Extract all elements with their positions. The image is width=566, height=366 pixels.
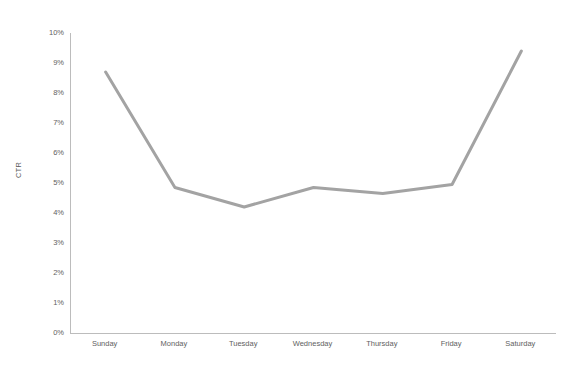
x-tick-label: Tuesday bbox=[229, 340, 258, 348]
y-tick-label: 9% bbox=[38, 59, 64, 67]
x-tick-label: Thursday bbox=[366, 340, 397, 348]
x-axis-tick-labels: SundayMondayTuesdayWednesdayThursdayFrid… bbox=[70, 340, 555, 356]
ctr-data-line bbox=[106, 51, 522, 207]
y-tick-label: 10% bbox=[38, 29, 64, 37]
y-tick-label: 6% bbox=[38, 149, 64, 157]
ctr-line-chart: CTR 0%1%2%3%4%5%6%7%8%9%10% SundayMonday… bbox=[0, 0, 566, 366]
x-tick-label: Saturday bbox=[505, 340, 535, 348]
y-tick-label: 8% bbox=[38, 89, 64, 97]
y-tick-label: 3% bbox=[38, 239, 64, 247]
y-tick-label: 2% bbox=[38, 269, 64, 277]
y-axis-title: CTR bbox=[14, 140, 23, 200]
y-tick-label: 5% bbox=[38, 179, 64, 187]
y-tick-label: 0% bbox=[38, 329, 64, 337]
x-tick-label: Friday bbox=[441, 340, 462, 348]
plot-area bbox=[70, 33, 556, 334]
data-line-svg bbox=[71, 33, 556, 333]
y-tick-label: 1% bbox=[38, 299, 64, 307]
y-tick-label: 7% bbox=[38, 119, 64, 127]
x-tick-label: Monday bbox=[161, 340, 188, 348]
y-axis-tick-labels: 0%1%2%3%4%5%6%7%8%9%10% bbox=[38, 33, 64, 333]
y-tick-label: 4% bbox=[38, 209, 64, 217]
x-tick-label: Sunday bbox=[92, 340, 117, 348]
x-tick-label: Wednesday bbox=[293, 340, 332, 348]
